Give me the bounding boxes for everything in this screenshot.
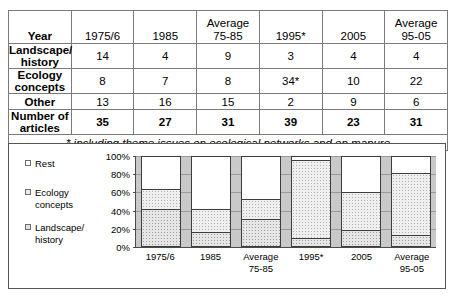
segment-ecology-concepts	[392, 174, 430, 236]
cell-value: 8	[71, 69, 134, 94]
row-label-number-of-articles: Number of articles	[9, 110, 72, 135]
stacked-bar[interactable]	[341, 156, 381, 247]
legend-line1: Landscape/	[35, 222, 84, 233]
y-tick-label: 0%	[116, 242, 130, 253]
x-label-line2: 75-85	[249, 263, 273, 274]
table-body: Year 1975/6 1985 Average 75-85 1995*	[9, 11, 448, 151]
legend-line1: Ecology	[35, 187, 69, 198]
header-line2: 75-85	[197, 30, 259, 42]
cell-value: 8	[197, 69, 260, 94]
cell-value: 14	[71, 44, 134, 69]
x-tick-label: 1995*	[286, 251, 336, 275]
legend-line1: Rest	[35, 158, 55, 169]
cell-value: 9	[197, 44, 260, 69]
x-label-line1: 1995*	[299, 251, 324, 262]
header-cell-2005: 2005	[322, 11, 385, 44]
legend-label-ecology-concepts: Ecology concepts	[35, 187, 73, 211]
table-header-row: Year 1975/6 1985 Average 75-85 1995*	[9, 11, 448, 44]
header-line2: 95-05	[385, 30, 447, 42]
legend-line2: history	[35, 234, 63, 245]
segment-landscape-history	[242, 220, 280, 246]
stacked-bar[interactable]	[191, 156, 231, 247]
header-line1: Average	[197, 17, 259, 29]
cell-value: 13	[71, 94, 134, 110]
data-table-container: Year 1975/6 1985 Average 75-85 1995*	[8, 10, 448, 151]
row-label-other: Other	[9, 94, 72, 110]
x-label-line1: 1975/6	[146, 251, 175, 262]
y-axis: 100% 80% 60% 40% 20% 0%	[97, 156, 133, 247]
cell-value: 4	[134, 44, 197, 69]
segment-landscape-history	[192, 233, 230, 246]
cell-value: 2	[259, 94, 322, 110]
stacked-bar[interactable]	[241, 156, 281, 247]
x-label-line1: Average	[394, 251, 429, 262]
bar-slot	[286, 156, 336, 247]
segment-landscape-history	[392, 236, 430, 246]
cell-value: 9	[322, 94, 385, 110]
table-row: Ecology concepts 8 7 8 34* 10 22	[9, 69, 448, 94]
stacked-bar[interactable]	[291, 156, 331, 247]
cell-value: 23	[322, 110, 385, 135]
stacked-bar-chart: Rest Ecology concepts Landscape/ history…	[8, 143, 446, 289]
cell-value: 10	[322, 69, 385, 94]
header-cell-1995: 1995*	[259, 11, 322, 44]
cell-value: 7	[134, 69, 197, 94]
stacked-bar[interactable]	[391, 156, 431, 247]
legend-line2: concepts	[35, 199, 73, 210]
segment-ecology-concepts	[342, 193, 380, 231]
segment-rest	[242, 157, 280, 200]
legend-label-rest: Rest	[35, 158, 55, 170]
row-label-landscape-history: Landscape/ history	[9, 44, 72, 69]
header-cell-1975-6: 1975/6	[71, 11, 134, 44]
cell-value: 6	[385, 94, 448, 110]
y-tick-label: 40%	[111, 205, 130, 216]
header-cell-average-95-05: Average 95-05	[385, 11, 448, 44]
cell-value: 15	[197, 94, 260, 110]
x-axis-labels: 1975/6 1985 Average 75-85 1995* 2005 Ave…	[135, 251, 437, 275]
bar-slot	[236, 156, 286, 247]
segment-rest	[342, 157, 380, 193]
header-line1: 2005	[323, 30, 385, 42]
cell-value: 34*	[259, 69, 322, 94]
x-tick-label: 1985	[185, 251, 235, 275]
cell-value: 39	[259, 110, 322, 135]
cell-value: 4	[385, 44, 448, 69]
segment-ecology-concepts	[142, 190, 180, 210]
y-tickmark	[133, 247, 136, 248]
y-tick-label: 100%	[106, 151, 130, 162]
y-tick-label: 60%	[111, 187, 130, 198]
header-cell-year: Year	[9, 11, 72, 44]
segment-landscape-history	[342, 231, 380, 246]
cell-value: 31	[197, 110, 260, 135]
header-cell-average-75-85: Average 75-85	[197, 11, 260, 44]
cell-value: 27	[134, 110, 197, 135]
segment-rest	[142, 157, 180, 190]
legend-label-landscape-history: Landscape/ history	[35, 222, 84, 246]
segment-landscape-history	[292, 239, 330, 246]
cell-value: 31	[385, 110, 448, 135]
cell-value: 16	[134, 94, 197, 110]
segment-ecology-concepts	[192, 210, 230, 233]
article-counts-table: Year 1975/6 1985 Average 75-85 1995*	[8, 10, 448, 151]
x-tick-label: 1975/6	[135, 251, 185, 275]
bar-slot	[336, 156, 386, 247]
row-label-ecology-concepts: Ecology concepts	[9, 69, 72, 94]
bar-slot	[186, 156, 236, 247]
x-label-line2: 95-05	[400, 263, 424, 274]
table-row-total: Number of articles 35 27 31 39 23 31	[9, 110, 448, 135]
stacked-bar[interactable]	[141, 156, 181, 247]
x-label-line1: 2005	[351, 251, 372, 262]
bar-slot	[136, 156, 186, 247]
header-line1: Average	[385, 17, 447, 29]
header-cell-1985: 1985	[134, 11, 197, 44]
plot-area	[135, 156, 436, 248]
cell-value: 4	[322, 44, 385, 69]
table-row: Landscape/ history 14 4 9 3 4 4	[9, 44, 448, 69]
header-line1: 1985	[134, 30, 196, 42]
header-line1: 1975/6	[72, 30, 134, 42]
y-tick-label: 80%	[111, 169, 130, 180]
x-label-line1: 1985	[200, 251, 221, 262]
cell-value: 22	[385, 69, 448, 94]
segment-rest	[392, 157, 430, 174]
x-tick-label: Average 75-85	[236, 251, 286, 275]
